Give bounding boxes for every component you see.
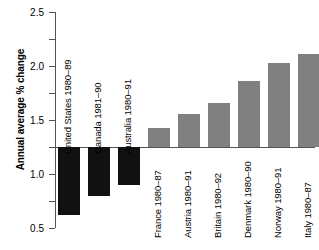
plot-area: 2.52.01.51.00.50-0.5-1.0-1.5United State… [56,12,315,228]
bar [88,147,110,196]
y-axis-tick: -1.0 [49,201,55,202]
y-axis-tick-label: 2.0 [4,61,44,72]
y-axis-tick-label: 1.0 [4,169,44,180]
category-label: Austria 1980–91 [182,170,193,238]
y-axis-title: Annual average % change [15,30,26,190]
y-axis-tick: 0.5 [49,120,55,121]
y-axis-tick-label: 2.5 [4,7,44,18]
bar [178,114,200,147]
y-axis-tick: 1.0 [49,93,55,94]
bar [238,81,260,147]
category-label: Australia 1980–91 [122,79,133,154]
bar [148,128,170,147]
y-axis-tick: 2.5 [49,12,55,13]
y-axis-line [55,12,56,228]
category-label: France 1980–87 [152,170,163,238]
category-label: Italy 1980–87 [302,182,313,238]
category-label: Denmark 1980–90 [242,161,253,238]
y-axis-tick: 2.0 [49,39,55,40]
bar-chart: Annual average % change 2.52.01.51.00.50… [0,0,319,250]
category-label: Norway 1980–91 [272,168,283,238]
y-axis-tick: -0.5 [49,174,55,175]
y-axis-tick: -1.5 [49,228,55,229]
category-label: Britain 1980–92 [212,173,223,238]
category-label: Canada 1981–90 [92,82,103,154]
bar [298,54,319,147]
y-axis-tick: 0 [49,147,55,148]
y-axis-tick-label: 1.5 [4,115,44,126]
category-label: United States 1980–89 [62,59,73,154]
bar [58,147,80,215]
bar [208,103,230,147]
y-axis-tick-label: 0.5 [4,223,44,234]
bar [268,63,290,147]
y-axis-tick: 1.5 [49,66,55,67]
